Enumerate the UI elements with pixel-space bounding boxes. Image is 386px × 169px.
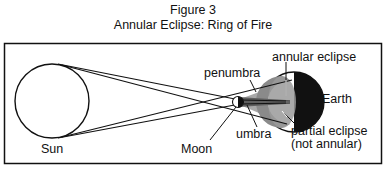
sun-label: Sun	[41, 142, 63, 156]
umbra-label: umbra	[236, 127, 271, 141]
partial-eclipse-label: partial eclipse	[291, 124, 367, 138]
moon-label: Moon	[181, 142, 212, 156]
sun-circle	[15, 64, 89, 138]
moon-icon	[233, 97, 244, 108]
annular-eclipse-label: annular eclipse	[272, 50, 356, 64]
penumbra-label: penumbra	[204, 66, 260, 80]
not-annular-label: (not annular)	[291, 137, 362, 151]
earth-label: Earth	[322, 92, 352, 106]
